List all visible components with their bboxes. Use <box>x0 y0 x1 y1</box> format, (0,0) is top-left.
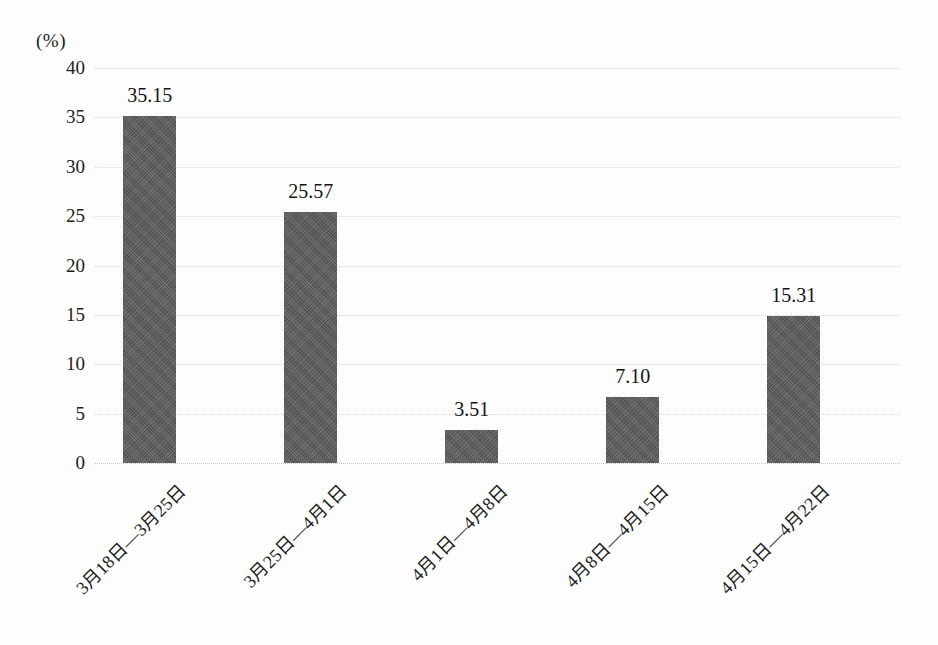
bar-value-label: 3.51 <box>454 398 489 421</box>
y-axis-tick: 10 <box>39 353 85 375</box>
y-axis-tick: 5 <box>39 403 85 425</box>
y-axis-tick: 15 <box>39 304 85 326</box>
bar <box>767 316 820 463</box>
x-axis-tick: 3月18日—3月25日 <box>68 477 190 599</box>
y-axis-tick: 35 <box>39 106 85 128</box>
plot-area: 35.1525.573.517.1015.31 <box>95 68 900 463</box>
bar-value-label: 25.57 <box>288 180 333 203</box>
bar <box>284 212 337 463</box>
bar-value-label: 35.15 <box>127 84 172 107</box>
bar <box>445 430 498 463</box>
gridline <box>95 266 900 267</box>
x-axis-tick: 4月8日—4月15日 <box>558 477 673 592</box>
gridline <box>95 216 900 217</box>
gridline <box>95 117 900 118</box>
bar-value-label: 15.31 <box>771 284 816 307</box>
gridline <box>95 167 900 168</box>
y-axis-tick: 40 <box>39 57 85 79</box>
bar <box>123 116 176 463</box>
y-axis-tick: 30 <box>39 156 85 178</box>
bar <box>606 397 659 463</box>
x-axis-tick-labels: 3月18日—3月25日3月25日—4月1日4月1日—4月8日4月8日—4月15日… <box>0 463 938 645</box>
y-axis-tick-labels: 4035302520151050 <box>33 68 85 463</box>
bar-chart: (%) 4035302520151050 35.1525.573.517.101… <box>0 0 938 645</box>
x-axis-tick: 3月25日—4月1日 <box>236 477 351 592</box>
x-axis-tick: 4月15日—4月22日 <box>712 477 834 599</box>
y-axis-unit-label: (%) <box>36 30 66 52</box>
x-axis-tick: 4月1日—4月8日 <box>403 477 512 586</box>
y-axis-tick: 25 <box>39 205 85 227</box>
bar-value-label: 7.10 <box>615 365 650 388</box>
y-axis-tick: 20 <box>39 255 85 277</box>
gridline <box>95 68 900 69</box>
